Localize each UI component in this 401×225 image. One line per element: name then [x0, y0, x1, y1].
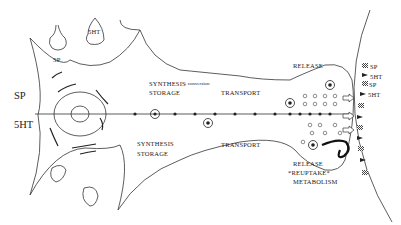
- receptor-label-sp-1: SP: [370, 63, 378, 70]
- label-reuptake: *REUPTAKE*: [288, 169, 330, 176]
- label-synthesis-bottom: SYNTHESIS: [137, 140, 174, 147]
- label-sp-soma: SP: [14, 90, 26, 101]
- label-5ht-soma: 5HT: [14, 119, 33, 130]
- receptor-label-sp-2: SP: [369, 81, 377, 88]
- neuron-diagram: SP 5HT SP 5HT SYNTHESIS ; conversion STO…: [0, 0, 401, 225]
- sp-bouton-top: [49, 25, 66, 50]
- release-arrow: [343, 94, 354, 102]
- label-synthesis-top: SYNTHESIS: [149, 80, 186, 87]
- receptor-label-5ht-1: 5HT: [370, 73, 383, 80]
- reuptake-arrow: [322, 141, 349, 158]
- label-5ht-bouton: 5HT: [88, 28, 101, 35]
- label-storage-bottom: STORAGE: [137, 150, 168, 157]
- neuron-drawing: [0, 0, 401, 225]
- label-release-bottom: RELEASE: [293, 160, 323, 167]
- label-storage-top: STORAGE: [149, 89, 180, 96]
- mitochondrion: [52, 72, 62, 78]
- label-transport-bottom: TRANSPORT: [221, 141, 260, 148]
- label-sp-bouton: SP: [53, 56, 61, 63]
- label-metabolism: METABOLISM: [293, 178, 337, 185]
- label-release-top: RELEASE: [293, 62, 323, 69]
- receptor-label-5ht-2: 5HT: [368, 91, 381, 98]
- label-transport-top: TRANSPORT: [221, 89, 260, 96]
- label-conversion: ; conversion: [185, 81, 210, 86]
